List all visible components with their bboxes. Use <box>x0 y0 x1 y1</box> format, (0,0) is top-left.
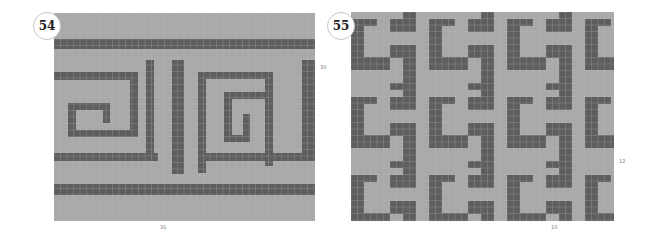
chart-number-badge-54: 54 <box>33 12 61 40</box>
dark-stitch-block <box>130 72 138 137</box>
dark-stitch-block <box>54 72 137 80</box>
width-label: 31 <box>160 224 166 230</box>
dark-stitch-block <box>585 57 614 70</box>
dark-stitch-block <box>68 130 138 137</box>
height-label: 12 <box>619 158 625 164</box>
knitting-chart-grid-greek-key <box>54 13 315 221</box>
dark-stitch-block <box>103 103 110 123</box>
knitting-chart-grid-key-repeat <box>351 12 614 221</box>
dark-stitch-block <box>265 72 273 166</box>
width-label: 10 <box>551 224 557 230</box>
chart-number-badge-55: 55 <box>327 12 355 40</box>
grid-svg <box>54 13 315 221</box>
dark-stitch-block <box>198 153 315 161</box>
height-label: 30 <box>320 64 326 70</box>
dark-stitch-block <box>146 60 154 153</box>
grid-svg <box>351 12 614 221</box>
dark-stitch-block <box>585 135 614 148</box>
